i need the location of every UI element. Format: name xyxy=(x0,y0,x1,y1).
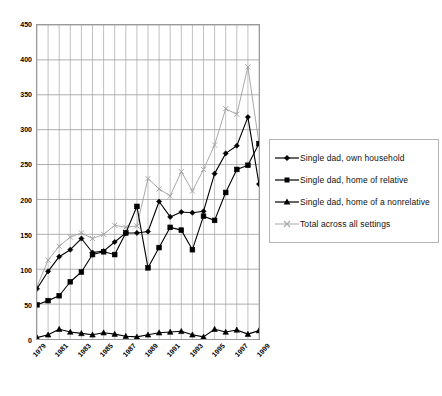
x-axis-tick-1983: 1983 xyxy=(76,342,92,358)
data-point-square xyxy=(101,249,106,254)
data-point-square xyxy=(157,245,162,250)
data-point-square xyxy=(112,252,117,257)
line-chart: 450400350300250200150100500 197919811983… xyxy=(0,0,275,396)
y-axis-tick-200: 200 xyxy=(4,196,32,203)
data-point-square xyxy=(168,225,173,230)
y-axis-tick-labels: 450400350300250200150100500 xyxy=(0,24,32,340)
data-point-square xyxy=(123,231,128,236)
x-axis-tick-1999: 1999 xyxy=(255,342,271,358)
x-axis-tick-labels: 1979198119831985198719891991199319951997… xyxy=(36,342,260,396)
data-point-diamond xyxy=(256,182,259,187)
data-point-diamond xyxy=(212,171,217,176)
data-point-diamond xyxy=(190,210,195,215)
legend-item-square[interactable]: Single dad, home of relative xyxy=(274,169,433,191)
data-point-diamond xyxy=(134,230,139,235)
x-axis-tick-1995: 1995 xyxy=(211,342,227,358)
x-axis-tick-1979: 1979 xyxy=(31,342,47,358)
chart-screenshot: 450400350300250200150100500 197919811983… xyxy=(0,0,442,396)
legend-item-label: Single dad, home of a nonrelative xyxy=(300,197,430,207)
x-axis-tick-1981: 1981 xyxy=(54,342,70,358)
x-axis-tick-1987: 1987 xyxy=(121,342,137,358)
y-axis-tick-0: 0 xyxy=(4,337,32,344)
chart-legend: Single dad, own household Single dad, ho… xyxy=(269,139,439,243)
y-axis-tick-100: 100 xyxy=(4,266,32,273)
data-point-diamond xyxy=(245,115,250,120)
data-point-square xyxy=(46,298,51,303)
y-axis-tick-250: 250 xyxy=(4,161,32,168)
legend-item-triangle[interactable]: Single dad, home of a nonrelative xyxy=(274,191,433,213)
data-point-square xyxy=(223,190,228,195)
y-axis-tick-450: 450 xyxy=(4,21,32,28)
data-point-square xyxy=(79,270,84,275)
y-axis-tick-400: 400 xyxy=(4,56,32,63)
triangle-marker-icon xyxy=(274,195,300,209)
data-point-square xyxy=(246,163,251,168)
y-axis-tick-50: 50 xyxy=(4,301,32,308)
legend-item-label: Single dad, own household xyxy=(300,153,405,163)
diamond-marker-icon xyxy=(274,151,300,165)
data-point-square xyxy=(146,265,151,270)
plot-area xyxy=(36,24,260,340)
y-axis-tick-300: 300 xyxy=(4,126,32,133)
data-point-triangle xyxy=(256,328,259,333)
legend-item-diamond[interactable]: Single dad, own household xyxy=(274,147,433,169)
data-point-square xyxy=(90,252,95,257)
x-axis-tick-1989: 1989 xyxy=(143,342,159,358)
data-point-diamond xyxy=(179,209,184,214)
cross-marker-icon xyxy=(274,217,300,231)
x-axis-tick-1997: 1997 xyxy=(233,342,249,358)
data-point-square xyxy=(68,279,73,284)
y-axis-tick-150: 150 xyxy=(4,231,32,238)
legend-item-cross[interactable]: Total across all settings xyxy=(274,213,433,235)
y-axis-tick-350: 350 xyxy=(4,91,32,98)
data-point-square xyxy=(201,214,206,219)
data-point-square xyxy=(179,228,184,233)
plot-svg xyxy=(37,25,259,339)
data-point-triangle xyxy=(234,327,240,332)
data-point-square xyxy=(212,218,217,223)
legend-item-label: Total across all settings xyxy=(300,219,390,229)
data-point-diamond xyxy=(201,209,206,214)
data-point-triangle xyxy=(45,332,51,337)
data-point-square xyxy=(190,247,195,252)
data-point-square xyxy=(37,302,39,307)
square-marker-icon xyxy=(274,173,300,187)
legend-item-label: Single dad, home of relative xyxy=(300,175,408,185)
data-point-square xyxy=(234,167,239,172)
x-axis-tick-1993: 1993 xyxy=(188,342,204,358)
data-point-square xyxy=(257,141,259,146)
x-axis-tick-1985: 1985 xyxy=(99,342,115,358)
data-point-square xyxy=(135,204,140,209)
x-axis-tick-1991: 1991 xyxy=(166,342,182,358)
data-point-triangle xyxy=(212,326,218,331)
data-point-triangle xyxy=(56,326,62,331)
data-point-square xyxy=(57,293,62,298)
data-point-diamond xyxy=(145,229,150,234)
